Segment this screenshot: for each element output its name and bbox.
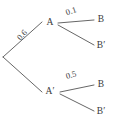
tree-branches-svg [0,0,113,118]
node-label-a: A [47,18,54,28]
node-label-b-top: B [98,15,104,25]
branch-a-prime-to-b-prime [60,94,94,111]
branch-a-to-b-prime [58,25,94,45]
node-label-b-prime-top: B′ [97,41,105,51]
branch-root-to-a-prime [3,57,42,92]
node-label-a-prime: A′ [46,87,55,97]
branch-a-prime-to-b [60,85,94,92]
node-label-b-prime-bottom: B′ [97,107,105,117]
node-label-b-bottom: B [98,80,104,90]
probability-tree-diagram: A A′ B B′ B B′ 0.6 0.1 0.5 [0,0,113,118]
branch-a-to-b [58,20,94,23]
